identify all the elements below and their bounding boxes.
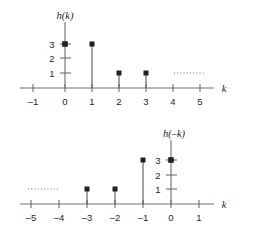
x-axis-label: k [222, 83, 227, 94]
x-tick-label-minus1: –1 [138, 212, 149, 223]
y-tick-label-3: 3 [49, 39, 54, 50]
stem-marker-k1 [90, 42, 95, 47]
chart-panel-h-of-minus-k: –5 –4 –3 –2 –1 0 1 3 2 1 h(–k) k [0, 118, 256, 236]
y-tick-label-1: 1 [155, 184, 160, 195]
y-tick-label-1: 1 [49, 68, 54, 79]
x-tick-label-minus1: –1 [28, 96, 39, 107]
x-axis-label: k [222, 199, 227, 210]
x-tick-label-0: 0 [62, 96, 67, 107]
stem-marker-k0 [62, 41, 68, 47]
stem-marker-k0 [168, 157, 174, 163]
x-tick-label-minus2: –2 [110, 212, 121, 223]
figure-container: –1 0 1 2 3 4 5 3 2 1 h(k) k [0, 0, 256, 236]
x-tick-label-minus3: –3 [82, 212, 93, 223]
stem-marker-k3 [144, 71, 149, 76]
x-tick-label-4: 4 [170, 96, 175, 107]
signal-label-h-of-k: h(k) [57, 10, 74, 22]
stem-marker-k-minus2 [113, 187, 118, 192]
x-tick-label-5: 5 [197, 96, 202, 107]
stem-marker-k-minus3 [85, 187, 90, 192]
x-tick-label-1: 1 [89, 96, 94, 107]
x-tick-label-0: 0 [168, 212, 173, 223]
stem-marker-k-minus1 [141, 158, 146, 163]
x-tick-label-minus4: –4 [54, 212, 65, 223]
stem-plot-h-of-k: –1 0 1 2 3 4 5 3 2 1 h(k) k [0, 0, 256, 118]
chart-panel-h-of-k: –1 0 1 2 3 4 5 3 2 1 h(k) k [0, 0, 256, 118]
signal-label-h-of-minus-k: h(–k) [163, 128, 186, 140]
x-tick-label-1: 1 [196, 212, 201, 223]
y-tick-label-3: 3 [155, 155, 160, 166]
stem-plot-h-of-minus-k: –5 –4 –3 –2 –1 0 1 3 2 1 h(–k) k [0, 118, 256, 236]
x-tick-label-3: 3 [143, 96, 148, 107]
y-tick-label-2: 2 [155, 170, 160, 181]
x-tick-label-2: 2 [116, 96, 121, 107]
x-tick-label-minus5: –5 [26, 212, 37, 223]
y-tick-label-2: 2 [49, 53, 54, 64]
stem-marker-k2 [117, 71, 122, 76]
